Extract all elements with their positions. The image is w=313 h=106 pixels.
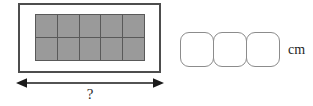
unknown-width-label: ? bbox=[16, 86, 164, 103]
unit-square bbox=[36, 15, 57, 37]
unit-square bbox=[101, 15, 122, 37]
unit-square bbox=[80, 15, 101, 37]
unit-square bbox=[123, 38, 144, 60]
worksheet-figure: ? cm bbox=[0, 0, 313, 106]
answer-box-1[interactable] bbox=[180, 32, 214, 67]
unit-label-cm: cm bbox=[288, 32, 305, 67]
answer-box-2[interactable] bbox=[213, 32, 247, 67]
unit-square bbox=[36, 38, 57, 60]
unit-square bbox=[123, 15, 144, 37]
answer-box-3[interactable] bbox=[246, 32, 280, 67]
answer-entry-group: cm bbox=[180, 32, 305, 67]
unit-square bbox=[58, 15, 79, 37]
unit-square bbox=[58, 38, 79, 60]
unit-square-grid bbox=[35, 14, 145, 61]
unit-square bbox=[101, 38, 122, 60]
unit-square bbox=[80, 38, 101, 60]
